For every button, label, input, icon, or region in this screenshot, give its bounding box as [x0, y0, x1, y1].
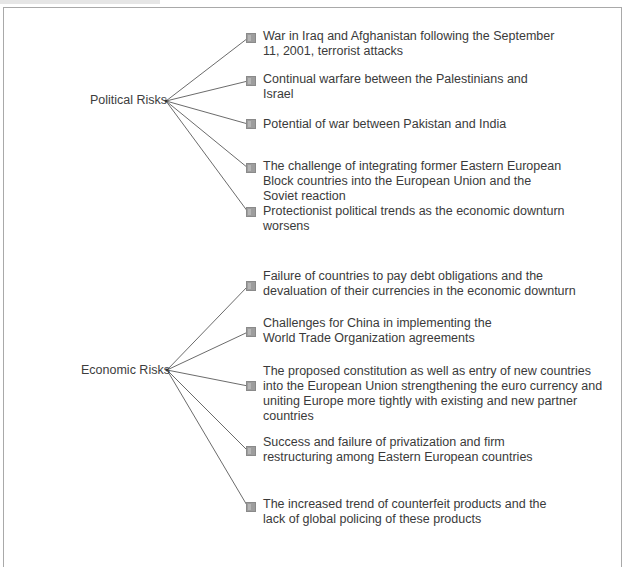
list-item: Success and failure of privatization and…	[246, 446, 553, 465]
category-economic-risks: Economic Risks	[81, 363, 170, 377]
square-bullet-icon	[246, 119, 256, 129]
list-item: Challenges for China in implementing the…	[246, 327, 523, 346]
square-bullet-icon	[246, 381, 256, 391]
item-text: The increased trend of counterfeit produ…	[263, 497, 563, 527]
list-item: Failure of countries to pay debt obligat…	[246, 281, 593, 299]
list-item: Continual warfare between the Palestinia…	[246, 76, 538, 102]
item-text: The proposed constitution as well as ent…	[263, 364, 603, 424]
item-text: Challenges for China in implementing the…	[263, 316, 523, 346]
square-bullet-icon	[246, 281, 256, 291]
square-bullet-icon	[246, 327, 256, 337]
item-text: Continual warfare between the Palestinia…	[263, 72, 538, 102]
list-item: The challenge of integrating former East…	[246, 163, 563, 204]
list-item: Protectionist political trends as the ec…	[246, 207, 573, 234]
item-text: The challenge of integrating former East…	[263, 159, 563, 204]
square-bullet-icon	[246, 163, 256, 173]
item-text: Failure of countries to pay debt obligat…	[263, 269, 593, 299]
list-item: War in Iraq and Afghanistan following th…	[246, 33, 563, 59]
square-bullet-icon	[246, 207, 256, 217]
category-political-risks: Political Risks	[90, 93, 167, 107]
list-item: Potential of war between Pakistan and In…	[246, 119, 506, 132]
item-text: Potential of war between Pakistan and In…	[263, 117, 506, 132]
square-bullet-icon	[246, 446, 256, 456]
square-bullet-icon	[246, 76, 256, 86]
square-bullet-icon	[246, 33, 256, 43]
item-text: Success and failure of privatization and…	[263, 435, 553, 465]
list-item: The increased trend of counterfeit produ…	[246, 502, 563, 527]
item-text: Protectionist political trends as the ec…	[263, 204, 573, 234]
list-item: The proposed constitution as well as ent…	[246, 381, 603, 424]
item-text: War in Iraq and Afghanistan following th…	[263, 29, 563, 59]
square-bullet-icon	[246, 502, 256, 512]
